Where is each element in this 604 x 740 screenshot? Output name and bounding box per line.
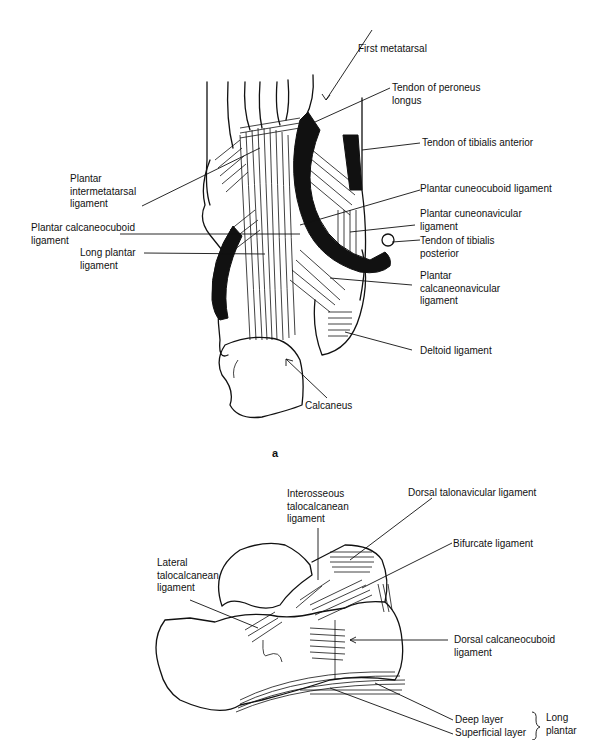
label-dorsal-talonavicular: Dorsal talonavicular ligament: [408, 487, 536, 500]
label-superficial-layer: Superficial layer: [455, 727, 526, 740]
label-interosseous-talocalcanean: Interosseous talocalcanean ligament: [287, 488, 349, 526]
label-first-metatarsal: First metatarsal: [358, 43, 427, 56]
label-plantar-cuneonavicular: Plantar cuneonavicular ligament: [420, 208, 522, 233]
label-tendon-tibialis-anterior: Tendon of tibialis anterior: [422, 137, 533, 150]
label-plantar-calcaneonavicular: Plantar calcaneonavicular ligament: [420, 270, 500, 308]
figure-a-caption: a: [272, 447, 278, 459]
figure-a-leader-lines: [120, 30, 420, 398]
label-plantar-calcaneocuboid: Plantar calcaneocuboid ligament: [31, 222, 135, 247]
brace-icon: [532, 712, 540, 740]
label-deep-layer: Deep layer: [455, 714, 503, 727]
label-long-plantar-group: Long plantar: [546, 712, 577, 737]
label-calcaneus: Calcaneus: [305, 400, 352, 413]
label-tendon-tibialis-posterior: Tendon of tibialis posterior: [420, 235, 495, 260]
label-long-plantar: Long plantar ligament: [80, 247, 136, 272]
figure-a-drawing: [202, 75, 394, 418]
label-lateral-talocalcanean: Lateral talocalcanean ligament: [157, 557, 219, 595]
label-tendon-peroneus-longus: Tendon of peroneus longus: [392, 82, 480, 107]
label-plantar-cuneocuboid: Plantar cuneocuboid ligament: [420, 183, 552, 196]
label-deltoid: Deltoid ligament: [420, 345, 492, 358]
label-dorsal-calcaneocuboid: Dorsal calcaneocuboid ligament: [454, 634, 555, 659]
figure-b-leader-lines: [190, 498, 453, 734]
label-plantar-intermetatarsal: Plantar intermetatarsal ligament: [70, 173, 136, 211]
foot-ligaments-illustration: [0, 0, 604, 740]
label-bifurcate: Bifurcate ligament: [453, 538, 533, 551]
